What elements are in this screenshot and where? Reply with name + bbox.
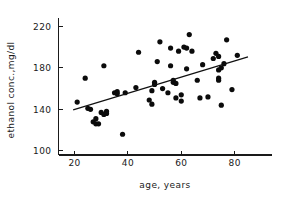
data-point (155, 59, 160, 64)
data-point (165, 90, 170, 95)
plot-canvas: 100140180220 20406080 age, years ethanol… (0, 0, 281, 198)
data-point (200, 62, 205, 67)
data-point (133, 85, 138, 90)
data-point (88, 107, 93, 112)
data-point (160, 86, 165, 91)
data-point (83, 76, 88, 81)
y-axis-ticks (59, 26, 63, 151)
data-point (157, 39, 162, 44)
data-point (189, 49, 194, 54)
y-tick-label: 220 (33, 22, 51, 32)
data-point (211, 56, 216, 61)
data-point (219, 103, 224, 108)
data-point (75, 99, 80, 104)
data-point (195, 78, 200, 83)
data-point (235, 53, 240, 58)
x-tick-label: 20 (68, 158, 80, 168)
y-axis-tick-labels: 100140180220 (33, 22, 51, 157)
x-axis-tick-labels: 20406080 (68, 158, 240, 168)
data-point (179, 98, 184, 103)
data-point (96, 121, 101, 126)
data-point (136, 50, 141, 55)
data-point (104, 111, 109, 116)
data-point (149, 102, 154, 107)
y-tick-label: 100 (33, 146, 51, 156)
data-point (216, 78, 221, 83)
data-point (216, 54, 221, 59)
data-point (120, 132, 125, 137)
data-point (187, 32, 192, 37)
data-point (176, 49, 181, 54)
data-point (197, 95, 202, 100)
scatter-plot-figure: 100140180220 20406080 age, years ethanol… (0, 0, 281, 198)
data-point (168, 45, 173, 50)
x-tick-label: 40 (122, 158, 134, 168)
x-tick-label: 60 (175, 158, 187, 168)
data-point (101, 63, 106, 68)
data-point (229, 87, 234, 92)
data-point (179, 92, 184, 97)
x-axis-title: age, years (139, 180, 190, 190)
x-tick-label: 80 (229, 158, 241, 168)
y-axis-title: ethanol conc.,mg/dl (6, 41, 16, 138)
data-point (149, 88, 154, 93)
axes (59, 18, 273, 155)
data-point (168, 63, 173, 68)
data-point (173, 81, 178, 86)
regression-line (73, 57, 248, 110)
data-point (205, 94, 210, 99)
data-point (93, 116, 98, 121)
data-point (224, 37, 229, 42)
y-tick-label: 140 (33, 105, 51, 115)
data-point (173, 95, 178, 100)
y-tick-label: 180 (33, 63, 51, 73)
data-point (184, 66, 189, 71)
data-point (184, 45, 189, 50)
x-axis-ticks (75, 151, 235, 155)
